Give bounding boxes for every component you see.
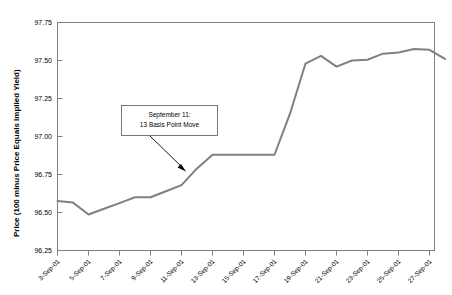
annotation-line-1: September 11: (148, 111, 190, 119)
annotation-line-2: 13 Basis Point Move (140, 121, 200, 128)
y-tick-label: 97.75 (34, 19, 52, 26)
y-tick-label: 97.00 (34, 133, 52, 140)
y-tick-label: 97.50 (34, 57, 52, 64)
y-axis-title: Price (100 minus Price Equals Implied Yi… (12, 69, 21, 237)
y-tick-label: 96.75 (34, 171, 52, 178)
price-line-chart: Price (100 minus Price Equals Implied Yi… (0, 0, 452, 295)
y-tick-label: 96.25 (34, 247, 52, 254)
y-tick-label: 97.25 (34, 95, 52, 102)
y-tick-label: 96.50 (34, 209, 52, 216)
y-axis-title-text: Price (100 minus Price Equals Implied Yi… (12, 69, 21, 237)
chart-container: Price (100 minus Price Equals Implied Yi… (0, 0, 452, 295)
